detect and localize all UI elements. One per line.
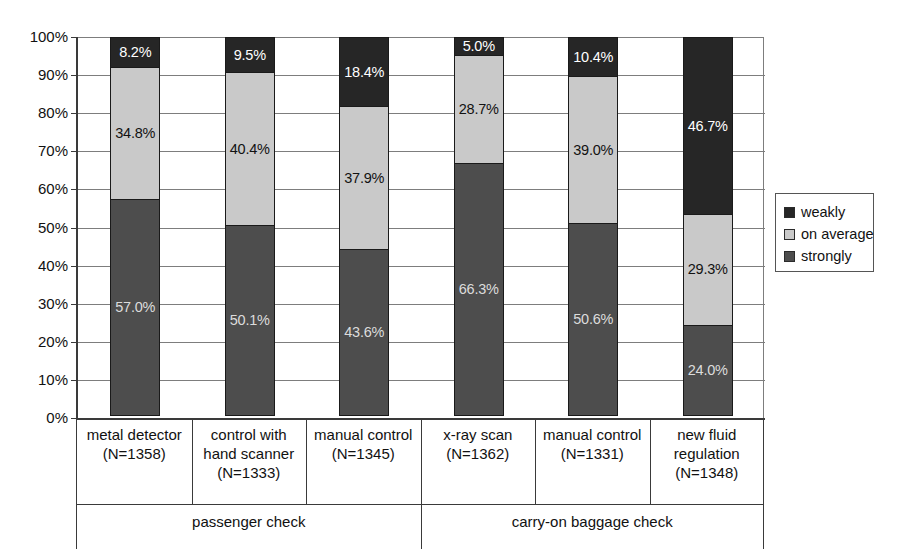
y-axis-labels: 100%90%80%70%60%50%40%30%20%10%0% — [0, 0, 68, 553]
y-tick-mark — [71, 380, 78, 381]
bar-segment-strongly[interactable]: 66.3% — [454, 163, 504, 416]
category-label: control withhand scanner(N=1333) — [192, 419, 307, 505]
bar[interactable]: 9.5%40.4%50.1% — [225, 37, 275, 418]
bar-segment-weakly[interactable]: 5.0% — [454, 37, 504, 56]
y-tick-label: 50% — [0, 219, 68, 236]
legend-item-label: strongly — [801, 248, 852, 264]
bar-segment-value-label: 66.3% — [459, 282, 499, 297]
category-label: metal detector(N=1358) — [77, 419, 192, 505]
category-label-line: metal detector — [77, 425, 192, 444]
bar-segment-value-label: 24.0% — [688, 363, 728, 378]
y-tick-label: 80% — [0, 104, 68, 121]
bar-segment-weakly[interactable]: 9.5% — [225, 37, 275, 73]
bar[interactable]: 5.0%28.7%66.3% — [454, 37, 504, 418]
gridline — [78, 151, 765, 152]
gridline — [78, 266, 765, 267]
legend-item[interactable]: strongly — [784, 245, 873, 267]
y-tick-mark — [71, 342, 78, 343]
bar-segment-weakly[interactable]: 46.7% — [683, 37, 733, 215]
gridline — [78, 75, 765, 76]
gridline — [78, 342, 765, 343]
bar-segment-value-label: 18.4% — [344, 65, 384, 80]
y-tick-mark — [71, 304, 78, 305]
category-label: manual control(N=1331) — [535, 419, 650, 505]
y-tick-mark — [71, 189, 78, 190]
y-tick-mark — [71, 266, 78, 267]
category-label-line: control with — [192, 425, 307, 444]
category-label-line: manual control — [535, 425, 650, 444]
bar-segment-value-label: 39.0% — [573, 143, 613, 158]
bar-segment-value-label: 5.0% — [463, 39, 495, 54]
bar-segment-value-label: 50.1% — [230, 313, 270, 328]
bar[interactable]: 18.4%37.9%43.6% — [339, 37, 389, 418]
bar-segment-average[interactable]: 39.0% — [568, 76, 618, 225]
bar-segment-weakly[interactable]: 18.4% — [339, 37, 389, 107]
bar-segment-average[interactable]: 29.3% — [683, 214, 733, 326]
gridline — [78, 228, 765, 229]
category-label-line: (N=1345) — [306, 444, 421, 463]
legend-item[interactable]: on average — [784, 223, 873, 245]
y-tick-label: 40% — [0, 257, 68, 274]
category-label-line: (N=1348) — [650, 463, 765, 482]
plot-area: 8.2%34.8%57.0%9.5%40.4%50.1%18.4%37.9%43… — [76, 37, 765, 420]
category-label-line: (N=1358) — [77, 444, 192, 463]
legend: weaklyon averagestrongly — [775, 193, 874, 272]
category-label-line: regulation — [650, 444, 765, 463]
group-label: passenger check — [77, 505, 421, 549]
bar-segment-average[interactable]: 37.9% — [339, 106, 389, 250]
bar[interactable]: 8.2%34.8%57.0% — [110, 37, 160, 418]
category-label-table: metal detector(N=1358)control withhand s… — [76, 419, 764, 505]
bar-segment-average[interactable]: 34.8% — [110, 67, 160, 200]
gridline — [78, 304, 765, 305]
gridline — [78, 189, 765, 190]
legend-swatch-icon — [784, 207, 795, 218]
legend-item-label: on average — [801, 226, 874, 242]
bar-segment-strongly[interactable]: 43.6% — [339, 249, 389, 415]
bar-segment-value-label: 46.7% — [688, 119, 728, 134]
y-tick-label: 90% — [0, 66, 68, 83]
bar-segment-average[interactable]: 40.4% — [225, 72, 275, 226]
y-tick-mark — [71, 37, 78, 38]
legend-item[interactable]: weakly — [784, 201, 873, 223]
bar-segment-value-label: 8.2% — [119, 45, 151, 60]
bar-segment-value-label: 29.3% — [688, 262, 728, 277]
category-label-line: manual control — [306, 425, 421, 444]
y-tick-mark — [71, 228, 78, 229]
y-tick-label: 20% — [0, 333, 68, 350]
group-label: carry-on baggage check — [421, 505, 765, 549]
y-tick-mark — [71, 113, 78, 114]
y-tick-mark — [71, 151, 78, 152]
bar-segment-value-label: 37.9% — [344, 171, 384, 186]
group-label-table: passenger checkcarry-on baggage check — [76, 505, 764, 549]
bar-segment-value-label: 40.4% — [230, 142, 270, 157]
bar-segment-value-label: 9.5% — [234, 48, 266, 63]
bar[interactable]: 46.7%29.3%24.0% — [683, 37, 733, 418]
bar-segment-weakly[interactable]: 8.2% — [110, 37, 160, 68]
bar-segment-strongly[interactable]: 24.0% — [683, 325, 733, 416]
category-separator — [192, 419, 193, 505]
bar-segment-strongly[interactable]: 50.6% — [568, 223, 618, 416]
group-label-text: passenger check — [77, 512, 421, 531]
category-separator — [535, 419, 536, 505]
bar-segment-strongly[interactable]: 50.1% — [225, 225, 275, 416]
bar-segment-average[interactable]: 28.7% — [454, 55, 504, 164]
bar-segment-value-label: 34.8% — [115, 126, 155, 141]
stacked-bar-chart: 100%90%80%70%60%50%40%30%20%10%0% 8.2%34… — [0, 0, 908, 553]
category-separator — [306, 419, 307, 505]
bar-segment-value-label: 43.6% — [344, 325, 384, 340]
category-label: x-ray scan(N=1362) — [421, 419, 536, 505]
gridline — [78, 113, 765, 114]
y-tick-label: 100% — [0, 28, 68, 45]
y-tick-label: 10% — [0, 371, 68, 388]
category-label-line: x-ray scan — [421, 425, 536, 444]
y-tick-mark — [71, 75, 78, 76]
bar[interactable]: 10.4%39.0%50.6% — [568, 37, 618, 418]
bar-segment-weakly[interactable]: 10.4% — [568, 37, 618, 77]
bar-segment-strongly[interactable]: 57.0% — [110, 199, 160, 416]
legend-swatch-icon — [784, 229, 795, 240]
category-label-line: (N=1333) — [192, 463, 307, 482]
category-label-line: (N=1331) — [535, 444, 650, 463]
bar-segment-value-label: 50.6% — [573, 312, 613, 327]
category-label: new fluidregulation(N=1348) — [650, 419, 765, 505]
y-tick-label: 0% — [0, 409, 68, 426]
